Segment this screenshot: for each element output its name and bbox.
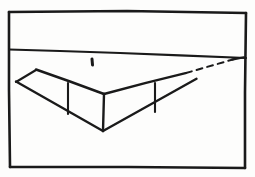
frame-top-edge xyxy=(9,11,246,13)
horizon-line xyxy=(9,50,246,59)
frame-right-edge xyxy=(245,13,246,168)
sketch-frame xyxy=(9,11,246,168)
box-back-left-edge xyxy=(16,70,36,82)
horizon-line-group xyxy=(9,50,246,59)
box-top-left-edge xyxy=(36,70,104,95)
perspective-box xyxy=(16,70,197,132)
perspective-sketch-canvas: Two-point perspective construction sketc… xyxy=(0,0,255,177)
dashed-construction-line xyxy=(186,58,238,73)
construction-lines-group xyxy=(186,57,244,73)
frame-bottom-edge xyxy=(10,167,245,168)
frame-left-edge xyxy=(9,12,10,167)
tick-mark-group xyxy=(92,59,93,65)
box-front-vertical-edge xyxy=(103,94,104,131)
sketch-svg xyxy=(0,0,255,177)
pen-tick-mark-icon xyxy=(92,59,93,65)
box-bottom-right-edge xyxy=(103,79,197,131)
